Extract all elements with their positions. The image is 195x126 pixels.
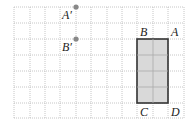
vertex-label-b: B — [140, 25, 148, 39]
vertex-label-d: D — [170, 105, 180, 119]
rectangle-transformation-diagram: A′B′ BACD — [0, 0, 195, 126]
point-b-prime — [73, 36, 78, 41]
vertex-label-c: C — [140, 105, 149, 119]
point-a-prime — [73, 4, 78, 9]
label-b-prime: B′ — [62, 40, 72, 54]
label-a-prime: A′ — [61, 8, 72, 22]
vertex-label-a: A — [170, 25, 179, 39]
